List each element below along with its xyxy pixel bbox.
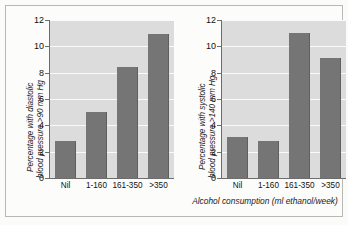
- bar: [86, 112, 107, 178]
- y-axis-tick: [45, 152, 49, 153]
- y-axis-tick: [217, 178, 221, 179]
- bar: [117, 67, 138, 178]
- bar: [258, 141, 279, 178]
- x-axis-tick-label: >350: [321, 181, 339, 190]
- y-axis-tick-label: 0: [196, 173, 216, 183]
- x-axis-line-right: [221, 178, 346, 179]
- chart-panel-right: Percentage with systolic blood pressure …: [178, 0, 346, 225]
- y-axis-tick-label: 10: [196, 41, 216, 51]
- x-axis-line-left: [49, 178, 174, 179]
- y-axis-tick: [217, 125, 221, 126]
- x-axis-tick-label: 1-160: [86, 181, 107, 190]
- y-axis-tick-label: 4: [196, 120, 216, 130]
- y-axis-tick: [45, 99, 49, 100]
- y-axis-tick: [217, 20, 221, 21]
- y-axis-tick-label: 2: [24, 147, 44, 157]
- y-axis-tick: [217, 73, 221, 74]
- x-axis-tick-label: 1-160: [258, 181, 279, 190]
- bar: [289, 33, 310, 178]
- y-axis-tick-label: 0: [24, 173, 44, 183]
- gridline: [222, 20, 346, 21]
- plot-area-right: [222, 20, 346, 178]
- y-axis-tick: [217, 99, 221, 100]
- chart-panel-left: Percentage with diastolic blood pressure…: [6, 0, 174, 225]
- x-axis-tick-label: Nil: [233, 181, 243, 190]
- y-axis-line-left: [49, 20, 50, 179]
- bar: [55, 141, 76, 178]
- y-axis-tick: [45, 125, 49, 126]
- plot-area-left: [50, 20, 174, 178]
- x-axis-tick-label: >350: [149, 181, 167, 190]
- y-axis-tick-label: 6: [24, 94, 44, 104]
- y-axis-tick-label: 6: [196, 94, 216, 104]
- y-axis-tick: [217, 152, 221, 153]
- y-axis-line-right: [221, 20, 222, 179]
- bar: [320, 58, 341, 178]
- figure-container: Percentage with diastolic blood pressure…: [0, 0, 348, 225]
- gridline: [50, 20, 174, 21]
- y-axis-tick: [45, 178, 49, 179]
- y-axis-tick-label: 8: [24, 68, 44, 78]
- y-axis-tick-label: 12: [196, 15, 216, 25]
- y-axis-tick: [45, 46, 49, 47]
- x-axis-tick-label: 161-350: [112, 181, 142, 190]
- bar: [148, 34, 169, 178]
- y-axis-tick-label: 4: [24, 120, 44, 130]
- y-axis-tick-label: 2: [196, 147, 216, 157]
- x-axis-tick-label: Nil: [61, 181, 71, 190]
- bar: [227, 137, 248, 178]
- gridline: [222, 46, 346, 47]
- y-axis-tick-label: 8: [196, 68, 216, 78]
- y-axis-tick-label: 12: [24, 15, 44, 25]
- y-axis-tick: [45, 73, 49, 74]
- x-axis-caption: Alcohol consumption (ml ethanol/week): [186, 196, 344, 206]
- y-axis-tick: [217, 46, 221, 47]
- y-axis-tick-label: 10: [24, 41, 44, 51]
- y-axis-tick: [45, 20, 49, 21]
- x-axis-tick-label: 161-350: [284, 181, 314, 190]
